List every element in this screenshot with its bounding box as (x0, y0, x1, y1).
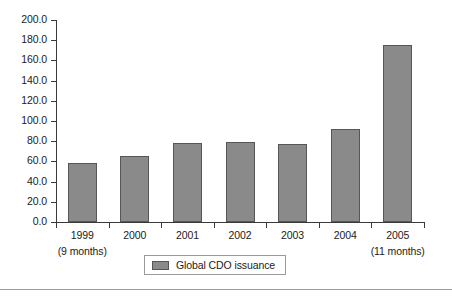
x-axis-tick-mark (214, 222, 215, 228)
y-axis-tick: 60.0 (0, 161, 56, 162)
y-axis-tick-mark (51, 20, 56, 21)
y-axis-tick-label: 100.0 (21, 114, 47, 127)
y-axis-tick: 100.0 (0, 121, 56, 122)
x-axis-tick-mark (371, 222, 372, 228)
x-axis-tick-mark (109, 222, 110, 228)
y-axis-tick-mark (51, 182, 56, 183)
y-axis-tick-mark (51, 60, 56, 61)
bar (331, 129, 360, 222)
y-axis-tick-label: 140.0 (21, 74, 47, 87)
bar (68, 163, 97, 222)
bar (120, 156, 149, 222)
y-axis-tick-label: 20.0 (27, 195, 47, 208)
x-axis-tick-mark (161, 222, 162, 228)
y-axis-tick: 140.0 (0, 81, 56, 82)
y-axis-tick-label: 160.0 (21, 53, 47, 66)
y-axis-tick-mark (51, 161, 56, 162)
y-axis-tick-label: 80.0 (27, 134, 47, 147)
y-axis-tick: 160.0 (0, 60, 56, 61)
y-axis-tick-mark (51, 81, 56, 82)
y-axis-tick: 180.0 (0, 40, 56, 41)
x-axis-tick-sublabel: (11 months) (353, 245, 443, 258)
legend-swatch-global-cdo-issuance (152, 261, 169, 270)
y-axis-tick-mark (51, 101, 56, 102)
y-axis-tick: 40.0 (0, 182, 56, 183)
y-axis-tick: 200.0 (0, 20, 56, 21)
y-axis-tick: 80.0 (0, 141, 56, 142)
y-axis-tick-label: 0.0 (33, 215, 47, 228)
bar (173, 143, 202, 222)
page-footer-rule (0, 289, 452, 290)
y-axis-tick-label: 200.0 (21, 13, 47, 26)
y-axis-tick-label: 120.0 (21, 94, 47, 107)
x-axis-line (56, 222, 425, 223)
y-axis-tick: 20.0 (0, 202, 56, 203)
bar-chart-figure: 0.020.040.060.080.0100.0120.0140.0160.01… (0, 0, 452, 298)
y-axis-tick-mark (51, 121, 56, 122)
y-axis-tick-mark (51, 202, 56, 203)
bar (383, 45, 412, 222)
bar (278, 144, 307, 222)
x-axis-tick-mark (424, 222, 425, 228)
legend-label-global-cdo-issuance: Global CDO issuance (176, 259, 275, 271)
y-axis-tick: 0.0 (0, 222, 56, 223)
x-axis-tick-mark (56, 222, 57, 228)
y-axis-tick-label: 180.0 (21, 33, 47, 46)
y-axis-tick: 120.0 (0, 101, 56, 102)
x-axis-tick-mark (266, 222, 267, 228)
x-axis-tick-mark (319, 222, 320, 228)
x-axis-tick-label: 2005 (358, 229, 438, 242)
y-axis-line (56, 20, 57, 223)
y-axis-tick-label: 40.0 (27, 175, 47, 188)
y-axis-tick-label: 60.0 (27, 154, 47, 167)
bar (226, 142, 255, 222)
y-axis-tick-mark (51, 141, 56, 142)
y-axis-tick-mark (51, 40, 56, 41)
chart-legend: Global CDO issuance (144, 255, 286, 275)
x-axis-tick-sublabel: (9 months) (37, 245, 127, 258)
